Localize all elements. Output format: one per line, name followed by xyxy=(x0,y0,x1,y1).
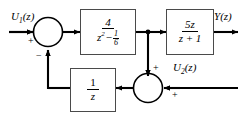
block1-numerator: 4 xyxy=(102,17,114,30)
block1-den-operator: − xyxy=(105,31,113,43)
block2-numerator: 5z xyxy=(182,19,198,32)
output-label-y: Y(z) xyxy=(214,11,232,22)
summing-junction-feedback xyxy=(134,74,163,103)
summing-junction-input xyxy=(34,18,63,47)
forward-block-1: 4 z2−16 xyxy=(80,9,136,55)
block1-den-frac-den: 6 xyxy=(113,39,119,47)
u2-argument: (z) xyxy=(185,61,197,73)
u1-symbol: U xyxy=(11,10,19,22)
sign-summer1-left: + xyxy=(28,36,34,46)
sign-summer1-bottom: − xyxy=(36,51,42,61)
feedback-block-delay: 1 z xyxy=(70,68,116,112)
input-label-u1: U1(z) xyxy=(11,11,34,25)
delay-numerator: 1 xyxy=(87,77,99,90)
sign-summer2-top: + xyxy=(153,63,159,73)
delay-denominator: z xyxy=(88,90,98,103)
block-diagram: 4 z2−16 5z z + 1 1 z U1(z) U2(z) Y(z) + … xyxy=(0,0,246,116)
block1-denominator: z2−16 xyxy=(94,29,122,47)
sign-summer2-right: + xyxy=(172,90,178,100)
u2-symbol: U xyxy=(173,61,181,73)
delay-block-transfer-function: 1 z xyxy=(87,77,99,102)
y-argument: (z) xyxy=(220,10,232,22)
takeoff-node xyxy=(146,30,151,35)
block2-denominator: z + 1 xyxy=(176,32,205,45)
forward-block-2-transfer-function: 5z z + 1 xyxy=(176,19,205,44)
forward-block-1-transfer-function: 4 z2−16 xyxy=(94,17,122,48)
u1-argument: (z) xyxy=(23,10,35,22)
block1-den-fraction: 16 xyxy=(113,30,119,47)
forward-block-2: 5z z + 1 xyxy=(166,9,214,55)
input-label-u2: U2(z) xyxy=(173,62,196,76)
